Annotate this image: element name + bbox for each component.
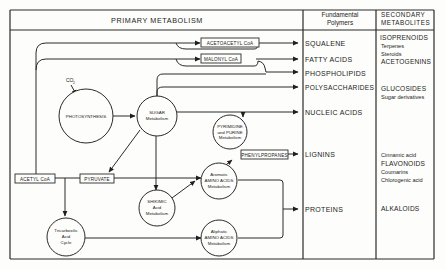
node-tricarboxylic-acid-cycle: Tricarboxilic Acid Cycle [47, 218, 85, 256]
header-secondary-line1: SECONDARY [381, 11, 426, 18]
secondary-steroids: Steroids [381, 51, 402, 57]
polymer-fatty-acids: FATTY ACIDS [305, 56, 352, 63]
svg-text:and PURINE: and PURINE [217, 130, 242, 135]
svg-text:Cycle: Cycle [61, 240, 73, 245]
node-sugar-metabolism: SUGAR Metabolism [137, 96, 177, 136]
polymer-polysaccharides: POLYSACCHARIDES [305, 84, 375, 91]
secondary-alkaloids: ALKALOIDS [381, 205, 420, 212]
node-aromatic-amino-acids: Aromatic AMINO ACIDS Metabolism [201, 163, 237, 199]
box-acetyl-coa: ACETYL CoA [15, 174, 55, 183]
svg-text:ACETOACETYL CoA: ACETOACETYL CoA [207, 41, 254, 46]
svg-text:SUGAR: SUGAR [149, 110, 165, 115]
node-shikimic-acid: SHIKIMIC Acid Metabolism [139, 190, 175, 226]
secondary-coumarins: Coumarins [381, 169, 408, 175]
svg-text:Aromatic: Aromatic [210, 172, 228, 177]
svg-text:Acid: Acid [153, 205, 162, 210]
svg-text:Aliphatic: Aliphatic [211, 229, 228, 234]
polymer-squalene: SQUALENE [305, 40, 346, 48]
svg-text:Acid: Acid [62, 234, 71, 239]
header-polymers-line2: Polymers [327, 19, 353, 27]
secondary-sugar-derivatives: Sugar derivatives [381, 94, 424, 100]
svg-text:AMINO ACIDS: AMINO ACIDS [205, 178, 234, 183]
secondary-acetogenins: ACETOGENINS [381, 58, 431, 65]
secondary-metabolites-list: ISOPRENOIDS Terpenes Steroids ACETOGENIN… [380, 34, 431, 212]
svg-text:2: 2 [73, 81, 75, 85]
header-polymers-line1: Fundamental [322, 11, 359, 18]
node-co2: CO 2 [66, 77, 75, 85]
header-primary-metabolism: PRIMARY METABOLISM [111, 16, 203, 25]
svg-text:PHENYLPROPANES: PHENYLPROPANES [241, 153, 287, 158]
secondary-flavonoids: FLAVONOIDS [381, 160, 425, 167]
svg-text:Metabolism: Metabolism [208, 241, 231, 246]
node-aliphatic-amino-acids: Aliphatic AMINO ACIDS Metabolism [201, 220, 237, 256]
polymer-proteins: PROTEINS [305, 206, 343, 213]
svg-text:Metabolism: Metabolism [146, 116, 169, 121]
node-pyrimidine-purine: PYRIMIDINE and PURINE Metabolism [213, 115, 247, 149]
svg-text:PHOTOSYNTHESIS: PHOTOSYNTHESIS [66, 114, 106, 119]
svg-text:Metabolism: Metabolism [146, 211, 169, 216]
polymers-list: SQUALENE FATTY ACIDS PHOSPHOLIPIDS POLYS… [305, 40, 375, 213]
polymer-lignins: LIGNINS [305, 151, 335, 158]
svg-text:PYRUVATE: PYRUVATE [84, 177, 110, 182]
secondary-glucosides: GLUCOSIDES [381, 85, 427, 92]
svg-text:PYRIMIDINE: PYRIMIDINE [217, 124, 243, 129]
node-photosynthesis: PHOTOSYNTHESIS [59, 89, 113, 143]
svg-text:ACETYL CoA: ACETYL CoA [20, 177, 51, 182]
box-acetoacetyl-coa: ACETOACETYL CoA [201, 38, 259, 47]
svg-text:MALONYL CoA: MALONYL CoA [204, 57, 239, 62]
secondary-cinnamic-acid: Cinnamic acid [381, 152, 416, 158]
svg-text:AMINO ACIDS: AMINO ACIDS [205, 235, 234, 240]
polymer-nucleic-acids: NUCLEIC ACIDS [305, 109, 363, 116]
box-phenylpropanes: PHENYLPROPANES [241, 150, 288, 159]
box-pyruvate: PYRUVATE [80, 174, 114, 183]
secondary-isoprenoids: ISOPRENOIDS [380, 34, 428, 41]
secondary-chlorogenic-acid: Chlorogenic acid [381, 177, 423, 183]
polymer-phospholipids: PHOSPHOLIPIDS [305, 70, 366, 77]
svg-text:Metabolism: Metabolism [208, 184, 231, 189]
box-malonyl-coa: MALONYL CoA [201, 54, 241, 63]
svg-text:SHIKIMIC: SHIKIMIC [147, 199, 167, 204]
header-secondary-line2: METABOLITES [381, 19, 430, 26]
svg-text:Metabolism: Metabolism [219, 135, 242, 140]
metabolism-diagram: PRIMARY METABOLISM Fundamental Polymers … [0, 0, 446, 269]
secondary-terpenes: Terpenes [381, 43, 404, 49]
svg-text:Tricarboxilic: Tricarboxilic [54, 228, 78, 233]
